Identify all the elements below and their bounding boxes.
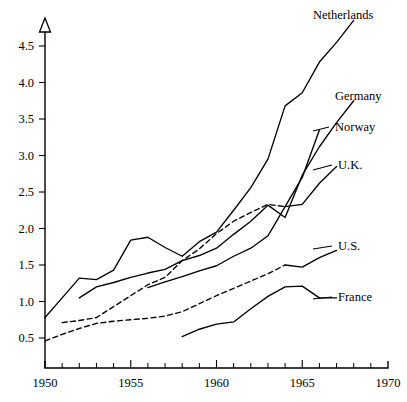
series-label-norway: Norway	[335, 120, 376, 134]
y-tick-label: 1.5	[18, 258, 34, 272]
chart-canvas: 0.51.01.52.02.53.03.54.04.5 195019551960…	[0, 0, 407, 402]
series-line-us	[45, 265, 285, 341]
series-line-netherlands	[45, 20, 354, 317]
x-tick-label: 1960	[204, 376, 229, 390]
series-label-france: France	[338, 290, 372, 304]
x-tick-label: 1950	[33, 376, 58, 390]
x-axis-tick-labels: 19501955196019651970	[33, 376, 401, 390]
series-line-us-solid	[285, 250, 336, 267]
x-tick-label: 1955	[118, 376, 143, 390]
series-lines	[45, 20, 354, 340]
series-line-france	[182, 286, 336, 336]
y-tick-label: 4.5	[18, 39, 34, 53]
y-tick-label: 3.5	[18, 112, 34, 126]
series-label-us: U.S.	[338, 239, 360, 253]
y-tick-label: 2.5	[18, 185, 34, 199]
y-tick-label: 2.0	[18, 222, 34, 236]
x-tick-label: 1965	[290, 376, 315, 390]
series-label-germany: Germany	[335, 89, 382, 103]
y-axis-arrow-icon	[40, 18, 51, 32]
y-tick-label: 4.0	[18, 76, 34, 90]
series-line-germany	[79, 101, 353, 298]
y-tick-label: 1.0	[18, 295, 34, 309]
y-axis-tick-labels: 0.51.01.52.02.53.03.54.04.5	[18, 39, 34, 345]
series-line-norway-solid	[285, 130, 319, 207]
series-label-uk: U.K.	[338, 158, 362, 172]
tick-marks	[39, 46, 371, 368]
axes	[40, 18, 389, 368]
y-tick-label: 3.0	[18, 149, 34, 163]
y-tick-label: 0.5	[18, 331, 34, 345]
series-end-labels: NetherlandsGermanyNorwayU.K.U.S.France	[313, 8, 382, 304]
leader-line-uk	[313, 165, 332, 170]
x-tick-label: 1970	[376, 376, 401, 390]
series-line-norway	[62, 204, 285, 322]
series-label-netherlands: Netherlands	[313, 8, 374, 22]
leader-line-norway	[313, 127, 329, 131]
leader-line-us	[313, 246, 332, 249]
line-chart-figure: 0.51.01.52.02.53.03.54.04.5 195019551960…	[0, 0, 407, 402]
